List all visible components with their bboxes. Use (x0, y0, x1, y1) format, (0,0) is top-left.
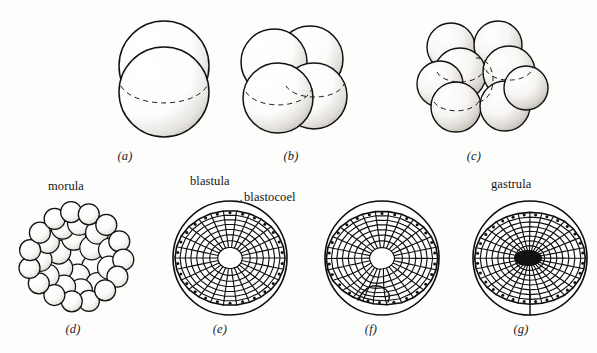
cell-nucleus (241, 300, 244, 303)
panel-e-drawing (166, 196, 298, 320)
cell-nucleus (430, 273, 433, 276)
cell-nucleus (337, 231, 340, 234)
cell-nucleus (281, 251, 284, 254)
cell-nucleus (579, 272, 582, 275)
cell-nucleus (356, 217, 359, 220)
cell-nucleus (405, 297, 408, 300)
cell-nucleus (253, 217, 256, 220)
cell-nucleus (185, 282, 188, 285)
cell-nucleus (176, 251, 179, 254)
cell-nucleus (523, 300, 526, 303)
cell-nucleus (345, 223, 348, 226)
cell-nucleus (573, 233, 576, 236)
cell-nucleus (253, 297, 256, 300)
cell-nucleus (512, 216, 515, 219)
cell-nucleus (501, 294, 504, 297)
cell-nucleus (328, 252, 331, 255)
cell-nucleus (204, 297, 207, 300)
cell-nucleus (433, 252, 436, 255)
panel-caption-g: (g) (506, 322, 536, 337)
cell-nucleus (278, 241, 281, 244)
cell-nucleus (501, 220, 504, 223)
cell-nucleus (194, 223, 197, 226)
cell-nucleus (476, 262, 479, 265)
cell-nucleus (278, 273, 281, 276)
cell-nucleus (204, 217, 207, 220)
cell-nucleus (328, 263, 331, 266)
cell-nucleus (430, 241, 433, 244)
panel-e-blastula (166, 196, 298, 320)
cell-nucleus (416, 223, 419, 226)
cell-nucleus (381, 212, 384, 215)
cell-nucleus (479, 242, 482, 245)
panel-caption-e: (e) (205, 322, 235, 337)
cell-nucleus (176, 262, 179, 265)
cell-nucleus (424, 231, 427, 234)
cell-nucleus (272, 282, 275, 285)
cell-nucleus (263, 290, 266, 293)
cell-nucleus (479, 272, 482, 275)
cell-nucleus (581, 262, 584, 265)
cell-nucleus (281, 262, 284, 265)
cell-nucleus (393, 213, 396, 216)
cell-nucleus (534, 213, 537, 216)
cell-nucleus (579, 242, 582, 245)
cell-nucleus (216, 213, 219, 216)
cell-spoke (326, 258, 369, 259)
embryology-figure: (a) (b) (0, 0, 597, 353)
cell-nucleus (392, 301, 395, 304)
cell-nucleus (566, 225, 569, 228)
cell-nucleus (229, 211, 232, 214)
cell-nucleus (545, 215, 548, 218)
cell-nucleus (433, 263, 436, 266)
cell-nucleus (179, 241, 182, 244)
cell-nucleus (331, 241, 334, 244)
cell-nucleus (338, 283, 341, 286)
cell-nucleus (368, 213, 371, 216)
archenteron-cavity (514, 250, 542, 266)
panel-g-gastrula (466, 196, 597, 320)
cell-nucleus (272, 231, 275, 234)
panel-f-early-gastrulation (318, 196, 450, 320)
cell-nucleus (476, 252, 479, 255)
cell-nucleus (229, 302, 232, 305)
cell-nucleus (416, 291, 419, 294)
panel-g-drawing (466, 196, 597, 320)
cell-nucleus (556, 294, 559, 297)
cell-nucleus (581, 252, 584, 255)
cell-nucleus (512, 298, 515, 301)
panel-f-drawing (318, 196, 450, 320)
cell-nucleus (492, 226, 495, 229)
cell-nucleus (484, 233, 487, 236)
cell-nucleus (378, 301, 381, 304)
cell-nucleus (348, 291, 351, 294)
label-gastrula: gastrula (491, 177, 531, 192)
cell-nucleus (424, 283, 427, 286)
cell-nucleus (194, 290, 197, 293)
cell-nucleus (241, 213, 244, 216)
cell-nucleus (545, 298, 548, 301)
cell-nucleus (523, 214, 526, 217)
cell-nucleus (405, 217, 408, 220)
cell-nucleus (492, 288, 495, 291)
cell-nucleus (556, 219, 559, 222)
cell-nucleus (484, 281, 487, 284)
cell-nucleus (179, 273, 182, 276)
cell-nucleus (331, 273, 334, 276)
cell-nucleus (566, 289, 569, 292)
panel-caption-f: (f) (356, 322, 386, 337)
cell-nucleus (216, 300, 219, 303)
cell-nucleus (263, 223, 266, 226)
cell-nucleus (573, 281, 576, 284)
cell-nucleus (185, 231, 188, 234)
cell-nucleus (367, 299, 370, 302)
cell-nucleus (534, 300, 537, 303)
